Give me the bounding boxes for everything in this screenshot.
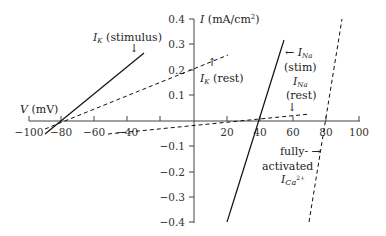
svg-text:0.4: 0.4: [168, 13, 185, 25]
svg-text:↑: ↑: [207, 56, 216, 69]
ina-rest-annotation: INa (rest) ↓: [286, 75, 316, 114]
svg-text:−100: −100: [15, 126, 44, 138]
svg-text:80: 80: [319, 126, 332, 138]
svg-text:−60: −60: [83, 126, 105, 138]
ina-stim-annotation: ← INa (stim): [284, 46, 317, 74]
svg-text:−40: −40: [116, 126, 138, 138]
svg-text:−0.4: −0.4: [160, 216, 186, 228]
svg-text:−0.2: −0.2: [160, 166, 186, 178]
svg-text:↓: ↓: [287, 101, 296, 114]
ik-stimulus-annotation: IK (stimulus) ↓: [92, 31, 162, 55]
ica-annotation: fully- → activated ICa2+: [262, 145, 321, 187]
ina-rest-line: [108, 114, 310, 134]
ik-rest-line: [45, 55, 228, 129]
svg-text:fully- →: fully- →: [280, 145, 321, 158]
svg-text:0.1: 0.1: [168, 89, 185, 101]
svg-text:↓: ↓: [129, 42, 138, 55]
svg-text:0.3: 0.3: [168, 38, 185, 50]
svg-text:0.2: 0.2: [168, 64, 185, 76]
ina-stim-line: [227, 40, 284, 222]
x-tick-labels: −100 −80 −60 −40 20 40 60 80 100: [15, 126, 369, 138]
ik-rest-annotation: ↑ IK (rest): [199, 56, 244, 86]
svg-text:IK (stimulus): IK (stimulus): [92, 31, 162, 45]
svg-text:60: 60: [286, 126, 299, 138]
svg-text:−0.1: −0.1: [160, 140, 186, 152]
ik-stimulus-line: [45, 53, 144, 134]
svg-text:INa: INa: [292, 75, 308, 89]
iv-chart: −100 −80 −60 −40 20 40 60 80 100 0.4 0.3…: [0, 0, 386, 236]
y-axis-label: I (mA/cm2): [199, 13, 260, 26]
svg-text:activated: activated: [262, 160, 313, 173]
svg-text:IK (rest): IK (rest): [199, 72, 244, 86]
svg-text:(stim): (stim): [284, 61, 317, 74]
svg-text:100: 100: [349, 126, 369, 138]
svg-text:← INa: ← INa: [285, 46, 312, 60]
svg-text:ICa2+: ICa2+: [280, 173, 305, 187]
svg-text:−0.3: −0.3: [160, 191, 186, 203]
svg-text:20: 20: [220, 126, 233, 138]
x-axis-label: V (mV): [20, 103, 58, 116]
